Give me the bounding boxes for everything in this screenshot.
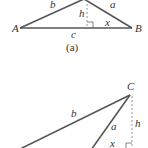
vertex-a-label: A: [11, 22, 19, 34]
segment-x-label: x: [104, 16, 110, 28]
height-label: h: [135, 117, 141, 129]
vertex-b-label: B: [135, 22, 142, 34]
right-angle-marker: [126, 143, 132, 148]
side-b-label: b: [50, 0, 56, 10]
height-label: h: [79, 7, 85, 19]
segment-x-label: x: [109, 137, 115, 148]
side-a-label: a: [111, 120, 117, 132]
triangle-diagram: A B b a c h x (a) C b a h x: [0, 0, 148, 148]
figure-b: C b a h x: [18, 80, 141, 148]
side-b-label: b: [71, 107, 77, 119]
side-c-label: c: [71, 28, 76, 40]
right-angle-marker: [87, 22, 93, 28]
figure-a: A B b a c h x (a): [11, 0, 142, 54]
figure-a-caption: (a): [66, 41, 79, 54]
vertex-c-label: C: [127, 80, 135, 92]
side-a-label: a: [110, 0, 116, 10]
